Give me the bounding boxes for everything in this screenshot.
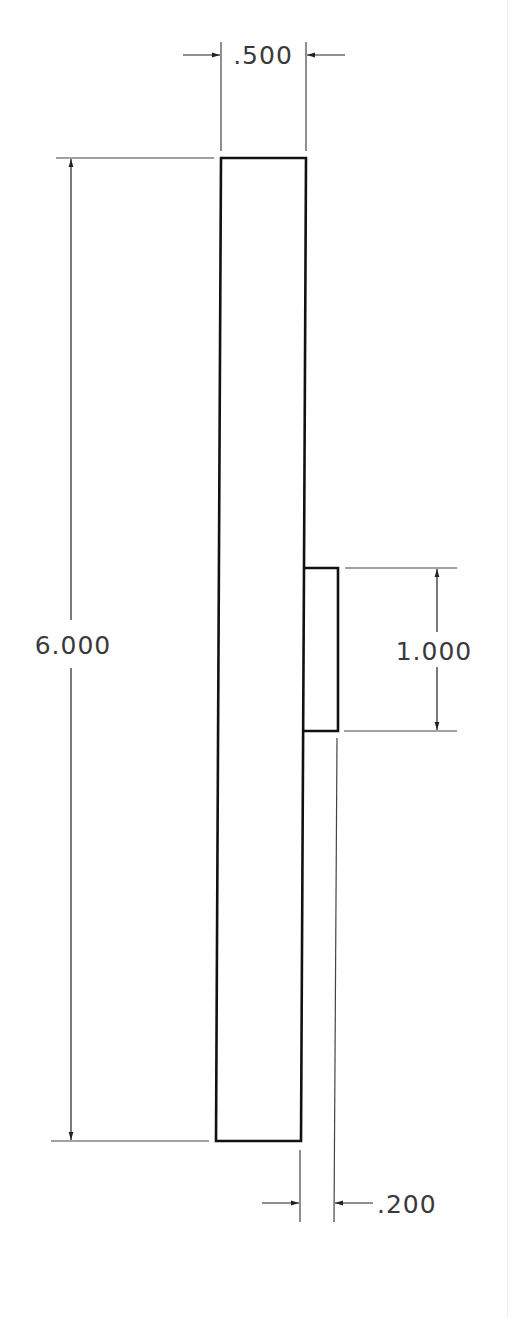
extension-line-tab-edge [334,738,337,1222]
dimension-label-500: .500 [233,41,293,70]
dimension-tab-depth: .200 [262,738,437,1222]
dimension-tab-height: 1.000 [344,568,472,731]
tab-outline [304,568,338,731]
dimension-width-top: .500 [183,41,345,151]
dimension-label-1000: 1.000 [396,637,473,666]
main-bar-outline [216,158,306,1141]
dimension-label-6000: 6.000 [35,631,112,660]
technical-drawing: .500 6.000 1.000 .200 [0,0,514,1318]
dimension-label-200: .200 [377,1190,437,1219]
object-outlines [216,158,338,1141]
dimension-overall-height: 6.000 [35,158,214,1141]
